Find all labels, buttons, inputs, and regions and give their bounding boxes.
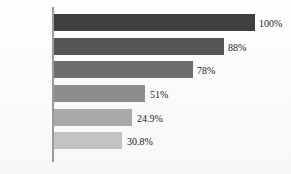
bar bbox=[54, 38, 224, 55]
plot-area: 子宫颈癌 100% 肛门癌 88% 阴道癌 78% 阴茎癌 51% 外阴癌 24… bbox=[0, 0, 291, 174]
bar bbox=[54, 85, 145, 102]
value-label: 78% bbox=[197, 64, 215, 75]
bar bbox=[54, 61, 193, 78]
bar bbox=[54, 14, 255, 31]
bar bbox=[54, 132, 122, 149]
value-label: 30.8% bbox=[127, 135, 153, 146]
value-label: 88% bbox=[228, 41, 246, 52]
value-label: 100% bbox=[259, 17, 282, 28]
value-label: 24.9% bbox=[137, 112, 163, 123]
value-label: 51% bbox=[150, 88, 168, 99]
bar-chart: 子宫颈癌 100% 肛门癌 88% 阴道癌 78% 阴茎癌 51% 外阴癌 24… bbox=[0, 0, 291, 174]
bar bbox=[54, 109, 132, 126]
